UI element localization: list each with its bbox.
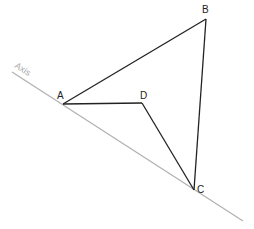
point-label-c: C bbox=[197, 184, 204, 195]
diagram-canvas: Axis A B C D bbox=[0, 0, 254, 229]
segment-bc bbox=[194, 19, 206, 190]
point-label-a: A bbox=[57, 90, 64, 101]
segment-ab bbox=[63, 19, 206, 104]
axis-label: Axis bbox=[13, 60, 33, 78]
segment-dc bbox=[142, 103, 194, 190]
point-label-b: B bbox=[202, 4, 209, 15]
axis-line bbox=[12, 72, 243, 221]
point-label-d: D bbox=[140, 90, 147, 101]
segment-ad bbox=[63, 103, 142, 104]
